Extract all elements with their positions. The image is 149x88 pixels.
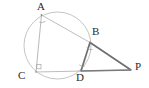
angle-mark-C-right-angle	[37, 65, 41, 69]
segment-AC	[36, 15, 42, 72]
point-label-D: D	[76, 72, 84, 83]
point-label-A: A	[37, 1, 45, 12]
angle-mark-A-arc	[39, 21, 45, 22]
segment-BP	[90, 43, 131, 71]
vertex-B	[89, 42, 91, 44]
point-label-P: P	[135, 61, 141, 72]
segment-AB	[42, 15, 91, 43]
vertex-P	[130, 69, 132, 71]
point-label-B: B	[92, 26, 99, 37]
segment-DP	[81, 70, 131, 71]
vertex-C	[35, 71, 37, 73]
vertex-A	[41, 14, 43, 16]
point-label-C: C	[18, 70, 25, 81]
